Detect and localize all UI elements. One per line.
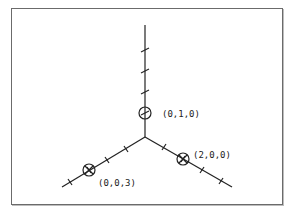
axes-diagram: (0,1,0) (2,0,0) (0,0,3) bbox=[0, 0, 289, 214]
point-label-0-0-3: (0,0,3) bbox=[98, 178, 136, 188]
point-label-0-1-0: (0,1,0) bbox=[162, 109, 200, 119]
point-label-2-0-0: (2,0,0) bbox=[193, 150, 231, 160]
